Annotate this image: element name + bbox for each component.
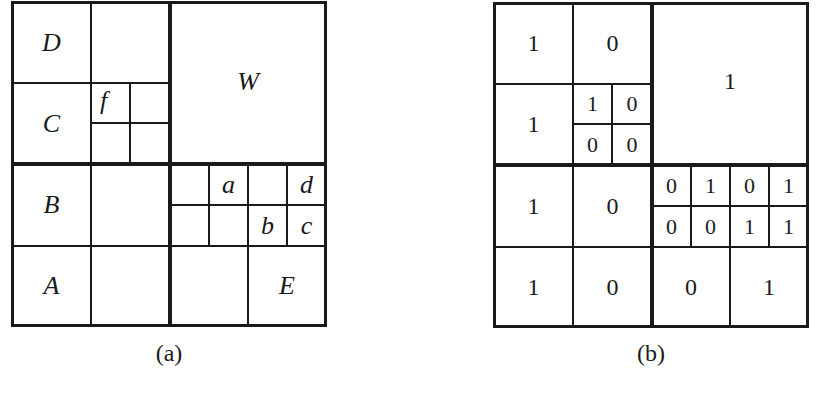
cell-nw-se-se: 0 <box>611 123 653 166</box>
cell-sw-se: 0 <box>572 246 653 328</box>
cell-se-r1c1 <box>169 163 210 206</box>
value: 0 <box>587 132 598 158</box>
cell-sw-ne: 0 <box>572 164 653 248</box>
value: 1 <box>587 91 598 117</box>
cell-se-r2c1: 0 <box>651 205 692 248</box>
label-E: E <box>279 271 295 301</box>
value: 1 <box>724 68 736 95</box>
value: 1 <box>528 274 540 301</box>
cell-sw-nw: 1 <box>493 164 574 248</box>
cell-se-r2c2: 0 <box>690 205 731 248</box>
cell-sw-ne <box>90 163 171 247</box>
value: 0 <box>607 30 619 57</box>
label-f: f <box>100 86 107 116</box>
cell-A: A <box>11 245 92 327</box>
cell-c: c <box>286 204 327 247</box>
label-d: d <box>300 170 313 200</box>
cell-se-r2c2 <box>208 204 249 247</box>
caption-a: (a) <box>139 340 199 367</box>
cell-se-r1c2: 1 <box>690 164 731 207</box>
cell-nw-se-ne <box>129 82 171 124</box>
cell-D: D <box>11 1 92 84</box>
cell-nw-ne <box>90 1 171 84</box>
cell-nw-se-se <box>129 122 171 165</box>
value: 0 <box>744 173 755 199</box>
label-b: b <box>261 211 274 241</box>
label-c: c <box>301 211 313 241</box>
value: 1 <box>528 30 540 57</box>
cell-nw-se-nw: 1 <box>572 83 613 125</box>
quadtree-binary-diagram: 1 0 1 1 0 0 0 1 1 0 1 0 0 1 0 1 0 0 1 1 … <box>493 2 809 328</box>
label-D: D <box>42 28 61 58</box>
cell-nw-nw: 1 <box>493 2 574 85</box>
value: 0 <box>685 274 697 301</box>
cell-nw-se-sw <box>90 122 131 165</box>
cell-se-sw: 0 <box>651 246 731 328</box>
value: 1 <box>528 193 540 220</box>
value: 0 <box>627 91 638 117</box>
cell-W: W <box>169 1 327 165</box>
cell-ne: 1 <box>651 2 809 166</box>
value: 1 <box>705 173 716 199</box>
cell-se-r2c4: 1 <box>768 205 809 248</box>
cell-E: E <box>247 245 327 327</box>
label-W: W <box>237 67 259 97</box>
label-A: A <box>44 271 60 301</box>
cell-b: b <box>247 204 288 247</box>
quadtree-labeled-diagram: D C f W B A a d b c E <box>11 1 327 327</box>
value: 0 <box>627 132 638 158</box>
cell-C: C <box>11 82 92 165</box>
value: 1 <box>744 214 755 240</box>
value: 1 <box>783 214 794 240</box>
cell-nw-se-ne: 0 <box>611 83 653 125</box>
value: 0 <box>666 173 677 199</box>
cell-sw-se <box>90 245 171 327</box>
value: 0 <box>666 214 677 240</box>
cell-se-r1c3 <box>247 163 288 206</box>
value: 0 <box>705 214 716 240</box>
cell-se-r2c1 <box>169 204 210 247</box>
label-B: B <box>44 190 60 220</box>
cell-nw-se-sw: 0 <box>572 123 613 166</box>
value: 1 <box>763 274 775 301</box>
cell-a: a <box>208 163 249 206</box>
cell-se-r1c3: 0 <box>729 164 770 207</box>
label-C: C <box>43 109 60 139</box>
cell-se-r1c1: 0 <box>651 164 692 207</box>
value: 1 <box>528 111 540 138</box>
cell-nw-ne: 0 <box>572 2 653 85</box>
cell-f: f <box>90 82 131 124</box>
cell-se-se: 1 <box>729 246 809 328</box>
cell-B: B <box>11 163 92 247</box>
cell-nw-sw: 1 <box>493 83 574 166</box>
cell-d: d <box>286 163 327 206</box>
cell-se-r2c3: 1 <box>729 205 770 248</box>
value: 0 <box>607 193 619 220</box>
caption-b: (b) <box>621 340 681 367</box>
cell-se-sw <box>169 245 249 327</box>
value: 0 <box>607 274 619 301</box>
value: 1 <box>783 173 794 199</box>
cell-sw-sw: 1 <box>493 246 574 328</box>
label-a: a <box>222 170 235 200</box>
cell-se-r1c4: 1 <box>768 164 809 207</box>
